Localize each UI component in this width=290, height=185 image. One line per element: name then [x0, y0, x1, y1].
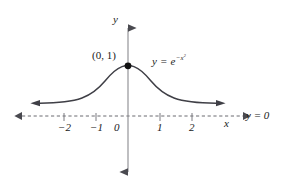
x-axis-label: x — [224, 118, 229, 129]
curve-equation-exponent-base: −x — [176, 54, 184, 61]
curve-equation-label: y = e−x2 — [152, 54, 186, 67]
plot-canvas — [0, 0, 290, 185]
point-label-0-1: (0, 1) — [92, 50, 116, 61]
figure-container: y x (0, 1) y = e−x2 y = 0 −2 −1 0 1 2 — [0, 0, 290, 185]
xtick-label-zero: 0 — [114, 122, 120, 133]
y-axis-label: y — [113, 14, 118, 25]
xtick-label-pos2: 2 — [189, 122, 195, 133]
curve-equation-exponent-power: 2 — [184, 53, 186, 58]
point-marker-0-1 — [125, 62, 132, 69]
curve-equation-exponent: −x2 — [176, 54, 186, 61]
xtick-label-neg1: −1 — [90, 122, 103, 133]
asymptote-label: y = 0 — [246, 110, 269, 121]
curve-equation-lead: y = e — [152, 55, 176, 67]
xtick-label-neg2: −2 — [58, 122, 71, 133]
xtick-label-pos1: 1 — [157, 122, 163, 133]
